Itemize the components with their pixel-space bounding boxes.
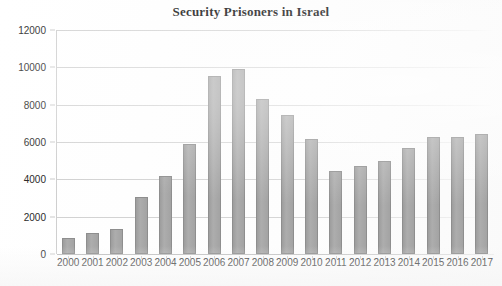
x-tick-mark-2012 bbox=[360, 256, 361, 259]
bar-2002 bbox=[110, 229, 123, 254]
x-tick-mark-2013 bbox=[385, 256, 386, 259]
y-tick-label-4000: 4000 bbox=[24, 174, 46, 185]
bar-2008 bbox=[256, 99, 269, 254]
x-tick-mark-2010 bbox=[312, 256, 313, 259]
y-tick-label-2000: 2000 bbox=[24, 211, 46, 222]
x-tick-mark-2009 bbox=[287, 256, 288, 259]
y-tick-label-6000: 6000 bbox=[24, 137, 46, 148]
bar-2016 bbox=[451, 137, 464, 254]
x-tick-mark-2002 bbox=[117, 256, 118, 259]
chart-title: Security Prisoners in Israel bbox=[0, 4, 502, 20]
y-tick-mark-10000 bbox=[50, 67, 55, 68]
y-axis: 020004000600080001000012000 bbox=[0, 30, 52, 254]
x-tick-mark-2017 bbox=[482, 256, 483, 259]
x-tick-mark-2016 bbox=[458, 256, 459, 259]
y-tick-mark-2000 bbox=[50, 216, 55, 217]
y-tick-label-0: 0 bbox=[40, 249, 46, 260]
bar-2005 bbox=[183, 144, 196, 254]
x-tick-mark-2005 bbox=[190, 256, 191, 259]
y-tick-mark-4000 bbox=[50, 179, 55, 180]
y-tick-label-10000: 10000 bbox=[18, 62, 46, 73]
bar-2004 bbox=[159, 176, 172, 254]
x-tick-mark-2008 bbox=[263, 256, 264, 259]
x-tick-mark-2007 bbox=[239, 256, 240, 259]
y-tick-label-8000: 8000 bbox=[24, 99, 46, 110]
bar-2000 bbox=[62, 238, 75, 254]
bar-2011 bbox=[329, 171, 342, 254]
y-tick-label-12000: 12000 bbox=[18, 25, 46, 36]
chart-figure: Security Prisoners in Israel 02000400060… bbox=[0, 0, 502, 286]
bar-2012 bbox=[354, 166, 367, 254]
bar-2003 bbox=[135, 197, 148, 254]
x-tick-mark-2003 bbox=[141, 256, 142, 259]
bar-2010 bbox=[305, 139, 318, 254]
x-axis: 2000200120022003200420052006200720082009… bbox=[56, 256, 494, 274]
y-tick-mark-8000 bbox=[50, 104, 55, 105]
x-tick-mark-2001 bbox=[93, 256, 94, 259]
x-tick-mark-2000 bbox=[68, 256, 69, 259]
bar-2014 bbox=[402, 148, 415, 254]
bar-2007 bbox=[232, 69, 245, 254]
x-tick-mark-2014 bbox=[409, 256, 410, 259]
y-tick-mark-6000 bbox=[50, 142, 55, 143]
bar-2015 bbox=[427, 137, 440, 254]
x-tick-mark-2006 bbox=[214, 256, 215, 259]
y-tick-mark-12000 bbox=[50, 30, 55, 31]
x-tick-mark-2011 bbox=[336, 256, 337, 259]
bar-2001 bbox=[86, 233, 99, 254]
x-tick-mark-2004 bbox=[166, 256, 167, 259]
bar-2006 bbox=[208, 76, 221, 254]
gridline-0 bbox=[57, 254, 494, 255]
x-tick-mark-2015 bbox=[433, 256, 434, 259]
bar-2009 bbox=[281, 115, 294, 254]
y-tick-mark-0 bbox=[50, 254, 55, 255]
bar-2013 bbox=[378, 161, 391, 254]
bar-2017 bbox=[475, 134, 488, 254]
bar-series bbox=[56, 30, 494, 254]
